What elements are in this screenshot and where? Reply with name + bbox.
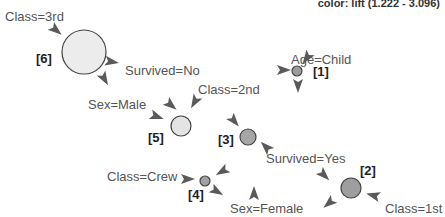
rule-index-label: [6] [36, 51, 52, 66]
rule-node[interactable]: [2] [341, 163, 376, 198]
arrow-head-icon [226, 113, 243, 130]
item-label-class-1st: Class=1st [385, 201, 443, 216]
item-label-class-2nd: Class=2nd [198, 82, 260, 97]
rule-index-label: [5] [148, 130, 164, 145]
arrow-head-icon [181, 174, 195, 184]
rule-circle[interactable] [341, 178, 361, 198]
arrow-head-icon [48, 22, 65, 39]
item-label-class-3rd: Class=3rd [5, 9, 64, 24]
rule-node[interactable]: [5] [148, 116, 191, 145]
arrow-head-icon [163, 97, 180, 114]
rule-index-label: [3] [218, 132, 234, 147]
association-rules-graph: color: lift (1.222 - 3.096) [6][5][3][1]… [0, 0, 445, 217]
item-label-sex-female: Sex=Female [230, 201, 303, 216]
arrow-head-icon [97, 71, 113, 88]
rule-circle[interactable] [200, 176, 210, 186]
arrow-head-icon [320, 195, 337, 212]
arrow-head-icon [104, 56, 120, 68]
rule-index-label: [2] [360, 163, 376, 178]
rule-node[interactable]: [3] [218, 129, 256, 147]
rule-circle[interactable] [292, 66, 302, 76]
rule-index-label: [4] [188, 187, 204, 202]
arrow-head-icon [149, 110, 166, 124]
item-label-survived-yes: Survived=Yes [266, 151, 346, 166]
arrow-head-icon [277, 65, 291, 75]
item-label-age-child: Age=Child [291, 52, 351, 67]
arrow-head-icon [365, 189, 381, 202]
item-label-sex-male: Sex=Male [88, 97, 146, 112]
arrow-head-icon [209, 184, 226, 200]
rule-circle[interactable] [240, 129, 256, 145]
item-label-class-crew: Class=Crew [107, 169, 178, 184]
rule-node[interactable]: [6] [36, 30, 106, 74]
item-label-survived-no: Survived=No [125, 63, 200, 78]
legend-color-lift: color: lift (1.222 - 3.096) [318, 0, 441, 9]
arrow-head-icon [293, 79, 303, 93]
rule-circle[interactable] [62, 30, 106, 74]
rule-circle[interactable] [171, 116, 191, 136]
arrow-head-icon [249, 186, 259, 200]
arrow-head-icon [316, 167, 333, 184]
arrow-head-icon [213, 164, 230, 180]
